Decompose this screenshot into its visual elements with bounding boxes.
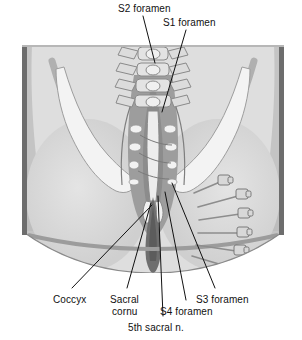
label-coccyx: Coccyx [53, 294, 86, 305]
label-s2-foramen: S2 foramen [118, 3, 171, 14]
needle-hub [227, 261, 242, 271]
label-fifth-sacral-nerve: 5th sacral n. [128, 322, 184, 333]
label-sacral-cornu-1: Sacral [110, 294, 139, 305]
figure-right-border [279, 45, 284, 235]
label-sacral-cornu-2: cornu [112, 306, 138, 317]
label-s3-foramen: S3 foramen [196, 294, 249, 305]
figure-left-border [22, 45, 27, 235]
anatomical-illustration [22, 45, 284, 273]
label-s1-foramen: S1 foramen [163, 17, 216, 28]
sacral-median-crest [147, 111, 159, 201]
label-s4-foramen: S4 foramen [160, 306, 213, 317]
figure-top-border [22, 45, 284, 47]
illustration-page: S2 foramen S1 foramen Coccyx Sacral corn… [0, 0, 302, 340]
